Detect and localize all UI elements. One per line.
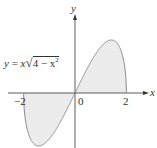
positive-area-fill: [75, 40, 126, 93]
tick-label-pos2: 2: [123, 96, 129, 107]
radicand: 4 − x2: [33, 56, 59, 69]
negative-area-fill: [24, 93, 75, 146]
graph-svg: [0, 0, 157, 148]
tick-label-neg2: −2: [14, 96, 26, 107]
x-axis-arrow-icon: [143, 91, 149, 95]
y-axis-arrow-icon: [73, 14, 77, 20]
sqrt-symbol-icon: √: [26, 55, 33, 70]
function-graph: y x −2 0 2 y = x√4 − x2: [0, 0, 157, 148]
y-axis-label: y: [71, 3, 76, 14]
equation-label: y = x√4 − x2: [4, 56, 59, 69]
x-axis-label: x: [150, 87, 155, 98]
tick-label-zero: 0: [78, 96, 84, 107]
